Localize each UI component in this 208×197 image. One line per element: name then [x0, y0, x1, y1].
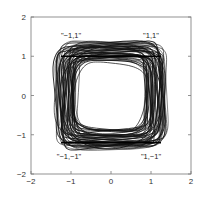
corner-label: "1,−1" — [141, 152, 161, 161]
x-axis-tick-labels: −2−1012 — [26, 177, 193, 186]
y-tick-label: 2 — [22, 13, 27, 22]
corner-label: "−1,−1" — [57, 152, 82, 161]
x-tick-label: 2 — [189, 177, 194, 186]
trajectory-path — [73, 61, 149, 132]
trajectory-path — [74, 58, 145, 131]
trajectory-path — [71, 55, 147, 134]
y-tick-label: −1 — [17, 131, 27, 140]
trajectory-path — [73, 55, 151, 134]
y-tick-label: 0 — [22, 92, 27, 101]
trajectory-path — [72, 62, 148, 132]
y-tick-label: −2 — [17, 170, 27, 179]
corner-label: "1,1" — [143, 31, 159, 40]
x-tick-label: 1 — [149, 177, 154, 186]
trajectory-path — [77, 60, 147, 132]
x-tick-label: −1 — [66, 177, 76, 186]
phase-plot: −2−1012 −2−1012 "−1,1""1,1""−1,−1""1,−1" — [0, 0, 208, 197]
x-tick-label: −2 — [26, 177, 36, 186]
x-tick-label: 0 — [109, 177, 114, 186]
y-axis-tick-labels: −2−1012 — [17, 13, 27, 179]
trajectory-lines — [53, 41, 168, 151]
trajectory-path — [70, 56, 149, 132]
y-tick-label: 1 — [22, 52, 27, 61]
corner-label: "−1,1" — [61, 31, 81, 40]
trajectory-path — [73, 59, 148, 130]
